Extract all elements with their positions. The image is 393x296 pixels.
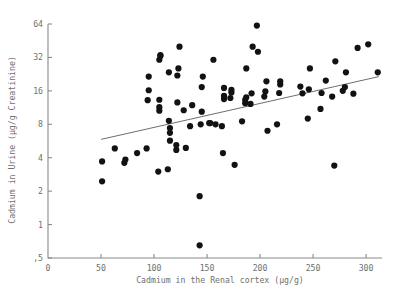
data-point <box>166 118 172 124</box>
data-point <box>156 97 162 103</box>
x-tick-label: 100 <box>147 263 162 273</box>
x-axis-title: Cadmium in the Renal cortex (µg/g) <box>136 275 304 285</box>
data-point <box>262 88 268 94</box>
data-point <box>318 90 324 96</box>
data-point <box>99 158 105 164</box>
data-point <box>250 44 256 50</box>
data-point <box>255 49 261 55</box>
y-tick-labels: ,51248163264 <box>33 19 43 263</box>
data-point <box>323 77 329 83</box>
data-point <box>243 65 249 71</box>
data-point <box>167 138 173 144</box>
data-point <box>167 125 173 131</box>
data-point <box>264 128 270 134</box>
data-point <box>232 162 238 168</box>
data-point <box>200 74 206 80</box>
data-point <box>219 123 225 129</box>
data-point <box>332 58 338 64</box>
data-point <box>305 116 311 122</box>
data-point <box>144 145 150 151</box>
x-tick-label: 250 <box>306 263 321 273</box>
y-tick-label: 8 <box>38 119 43 129</box>
data-point <box>307 65 313 71</box>
data-point <box>329 94 335 100</box>
tick-marks <box>48 24 366 258</box>
data-point <box>331 162 337 168</box>
data-point <box>166 69 172 75</box>
data-point <box>350 91 356 97</box>
regression-line-segment <box>101 77 379 140</box>
data-point <box>99 178 105 184</box>
data-point <box>297 83 303 89</box>
data-point <box>375 69 381 75</box>
data-point <box>197 242 203 248</box>
data-point <box>181 107 187 113</box>
data-point <box>197 193 203 199</box>
data-point <box>276 90 282 96</box>
data-point <box>263 78 269 84</box>
x-tick-labels: 050100150200250300 <box>46 263 374 273</box>
data-point <box>189 102 195 108</box>
x-tick-label: 200 <box>253 263 268 273</box>
y-tick-label: 4 <box>38 153 43 163</box>
y-tick-label: 2 <box>38 186 43 196</box>
data-point <box>317 106 323 112</box>
data-point <box>176 44 182 50</box>
data-point <box>165 166 171 172</box>
data-point <box>122 156 128 162</box>
scatter-chart: 050100150200250300 ,51248163264 Cadmium … <box>0 0 393 296</box>
data-point <box>254 22 260 28</box>
data-point <box>187 123 193 129</box>
data-point <box>243 94 249 100</box>
data-point <box>156 104 162 110</box>
data-point <box>342 84 348 90</box>
data-point <box>247 101 253 107</box>
data-point <box>146 74 152 80</box>
data-point <box>248 90 254 96</box>
y-axis-title: Cadmium in Urine (µg/g Creatinine) <box>7 56 17 224</box>
y-tick-label: 32 <box>33 52 43 62</box>
data-point <box>306 86 312 92</box>
data-point <box>157 52 163 58</box>
data-point <box>210 57 216 63</box>
data-point <box>221 85 227 91</box>
data-point <box>221 93 227 99</box>
data-point <box>174 99 180 105</box>
data-point <box>207 120 213 126</box>
x-tick-label: 300 <box>359 263 374 273</box>
data-point <box>175 65 181 71</box>
y-tick-label: 64 <box>33 19 43 29</box>
data-point <box>199 109 205 115</box>
y-tick-label: 16 <box>33 86 43 96</box>
y-tick-label: 1 <box>38 220 43 230</box>
data-point <box>365 41 371 47</box>
data-point <box>299 90 305 96</box>
data-point <box>198 121 204 127</box>
data-point <box>355 45 361 51</box>
y-tick-label: ,5 <box>33 253 43 263</box>
data-point <box>173 142 179 148</box>
data-point <box>112 145 118 151</box>
plot-canvas: 050100150200250300 ,51248163264 Cadmium … <box>0 0 393 296</box>
data-point <box>227 95 233 101</box>
data-point <box>134 150 140 156</box>
x-tick-label: 50 <box>96 263 106 273</box>
data-point <box>277 78 283 84</box>
data-point <box>212 121 218 127</box>
data-point <box>174 72 180 78</box>
data-point <box>220 150 226 156</box>
data-point <box>239 118 245 124</box>
data-point <box>155 168 161 174</box>
data-point <box>261 94 267 100</box>
x-tick-label: 0 <box>46 263 51 273</box>
x-tick-label: 150 <box>200 263 215 273</box>
data-point <box>274 121 280 127</box>
regression-line <box>101 77 379 140</box>
data-point <box>145 97 151 103</box>
data-point <box>343 69 349 75</box>
data-point <box>228 87 234 93</box>
data-point <box>146 87 152 93</box>
data-points <box>99 22 381 248</box>
data-point <box>199 84 205 90</box>
data-point <box>183 145 189 151</box>
